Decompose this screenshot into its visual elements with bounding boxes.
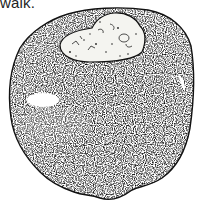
left-highlight [27, 93, 59, 107]
stone-illustration-icon [0, 0, 203, 206]
